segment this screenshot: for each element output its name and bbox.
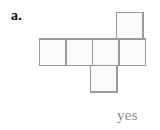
net-square-top [117, 13, 144, 40]
figure-panel: a. yes [0, 0, 160, 130]
net-square-row-4 [119, 39, 146, 66]
cube-net-cell-group [40, 13, 146, 93]
net-square-row-2 [66, 39, 93, 66]
net-square-bottom [91, 66, 118, 93]
answer-text: yes [117, 106, 138, 124]
net-square-row-3 [93, 39, 120, 66]
net-square-row-1 [40, 39, 67, 66]
